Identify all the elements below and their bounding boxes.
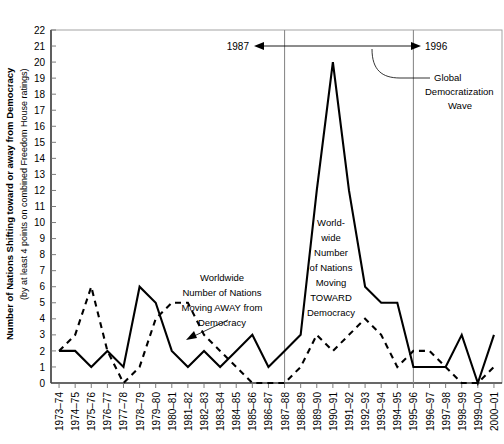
- toward-callout-line5: Moving: [316, 277, 347, 288]
- y-axis-title-main: Number of Nations Shifting toward or awa…: [4, 67, 15, 340]
- y-tick-label: 14: [34, 153, 46, 164]
- y-tick-label: 12: [34, 185, 46, 196]
- y-tick-label: 21: [34, 41, 46, 52]
- y-tick-label: 20: [34, 57, 46, 68]
- x-tick-label: 1984–85: [231, 392, 242, 431]
- wave-callout: Global Democratization Wave: [425, 72, 494, 111]
- series-moving-toward-line: [59, 62, 494, 383]
- wave-callout-line2: Democratization: [425, 86, 494, 97]
- x-tick-label: 1994–95: [392, 392, 403, 431]
- x-tick-label: 1981–82: [183, 392, 194, 431]
- y-axis-ticks: 012345678910111213141516171819202122: [34, 25, 56, 389]
- away-callout-line4: Democracy: [198, 317, 246, 328]
- y-axis-title-sub: (by at least 4 points on combined Freedo…: [19, 68, 29, 300]
- y-tick-label: 2: [39, 346, 45, 357]
- range-start-label: 1987: [227, 41, 250, 52]
- wave-callout-line3: Wave: [448, 100, 472, 111]
- x-tick-label: 1974–75: [70, 392, 81, 431]
- toward-callout-line1: World-: [317, 217, 345, 228]
- x-tick-label: 1996–97: [425, 392, 436, 431]
- y-tick-label: 18: [34, 89, 46, 100]
- wave-callout-leader: [372, 49, 430, 78]
- reference-lines: [285, 30, 414, 383]
- chart-container: 012345678910111213141516171819202122 197…: [0, 0, 504, 444]
- x-tick-label: 1997–98: [441, 392, 452, 431]
- y-tick-label: 17: [34, 105, 46, 116]
- x-axis-ticks: 1973–741974–751975–761976–771977–781978–…: [54, 383, 500, 431]
- toward-callout-line3: Number: [314, 247, 348, 258]
- y-tick-label: 8: [39, 249, 45, 260]
- x-tick-label: 1975–76: [86, 392, 97, 431]
- x-tick-label: 1990–91: [328, 392, 339, 431]
- x-tick-label: 1998–99: [457, 392, 468, 431]
- range-end-label: 1996: [425, 41, 448, 52]
- wave-callout-line1: Global: [434, 72, 461, 83]
- y-tick-label: 10: [34, 217, 46, 228]
- x-tick-label: 1980–81: [167, 392, 178, 431]
- y-tick-label: 4: [39, 313, 45, 324]
- toward-callout: World- wide Number of Nations Moving TOW…: [307, 217, 355, 318]
- toward-callout-line7: Democracy: [307, 307, 355, 318]
- toward-callout-line2: wide: [320, 232, 341, 243]
- y-tick-label: 16: [34, 121, 46, 132]
- series-moving-away-line: [59, 287, 494, 383]
- away-callout-line3: Moving AWAY from: [182, 302, 263, 313]
- x-tick-label: 1986–87: [263, 392, 274, 431]
- y-tick-label: 22: [34, 25, 46, 36]
- x-tick-label: 1985–86: [247, 392, 258, 431]
- y-tick-label: 6: [39, 281, 45, 292]
- away-callout-arrow-head: [186, 331, 197, 340]
- toward-callout-line6: TOWARD: [310, 292, 352, 303]
- y-tick-label: 19: [34, 73, 46, 84]
- x-tick-label: 1992–93: [360, 392, 371, 431]
- away-callout-line1: Worldwide: [200, 272, 244, 283]
- range-arrow-group: [254, 42, 421, 50]
- y-tick-label: 5: [39, 297, 45, 308]
- democratization-line-chart: 012345678910111213141516171819202122 197…: [0, 0, 504, 444]
- x-tick-label: 1987–88: [280, 392, 291, 431]
- x-tick-label: 1976–77: [102, 392, 113, 431]
- x-tick-label: 1995–96: [408, 392, 419, 431]
- y-tick-label: 7: [39, 265, 45, 276]
- x-tick-label: 1979–80: [151, 392, 162, 431]
- x-tick-label: 1993–94: [376, 392, 387, 431]
- x-tick-label: 2000–01: [489, 392, 500, 431]
- x-tick-label: 1988–89: [296, 392, 307, 431]
- x-tick-label: 1977–78: [118, 392, 129, 431]
- x-tick-label: 1983–84: [215, 392, 226, 431]
- y-tick-label: 15: [34, 137, 46, 148]
- x-tick-label: 1989–90: [312, 392, 323, 431]
- y-tick-label: 13: [34, 169, 46, 180]
- away-callout-line2: Number of Nations: [182, 287, 261, 298]
- x-tick-label: 1991–92: [344, 392, 355, 431]
- away-callout: Worldwide Number of Nations Moving AWAY …: [182, 272, 263, 328]
- x-tick-label: 1978–79: [135, 392, 146, 431]
- x-tick-label: 1973–74: [54, 392, 65, 431]
- y-tick-label: 9: [39, 233, 45, 244]
- y-tick-label: 11: [35, 201, 46, 212]
- toward-callout-line4: of Nations: [310, 262, 353, 273]
- range-arrow-left-head: [254, 42, 264, 50]
- x-tick-label: 1982–83: [199, 392, 210, 431]
- y-tick-label: 1: [39, 362, 45, 373]
- y-tick-label: 0: [39, 378, 45, 389]
- range-arrow-right-head: [411, 42, 421, 50]
- x-tick-label: 1999–00: [473, 392, 484, 431]
- y-tick-label: 3: [39, 329, 45, 340]
